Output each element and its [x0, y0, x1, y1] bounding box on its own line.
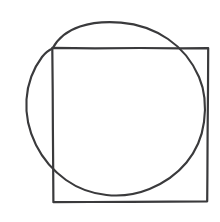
drawing-svg	[0, 0, 220, 222]
sketch-canvas: Hand-drawn circle and square sketch A fr…	[0, 0, 220, 222]
canvas-background	[0, 0, 220, 222]
